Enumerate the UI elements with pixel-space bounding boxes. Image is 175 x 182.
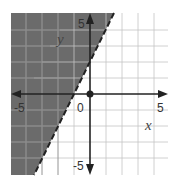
origin-point (87, 91, 94, 98)
x-axis-label: x (144, 117, 152, 133)
x-min-label: -5 (14, 101, 25, 115)
origin-label: 0 (77, 101, 84, 115)
y-min-label: -5 (73, 159, 84, 173)
x-max-label: 5 (157, 101, 164, 115)
y-max-label: 5 (78, 17, 85, 31)
graph: 5 y -5 0 5 x -5 (0, 0, 175, 182)
y-axis-label: y (55, 31, 64, 47)
